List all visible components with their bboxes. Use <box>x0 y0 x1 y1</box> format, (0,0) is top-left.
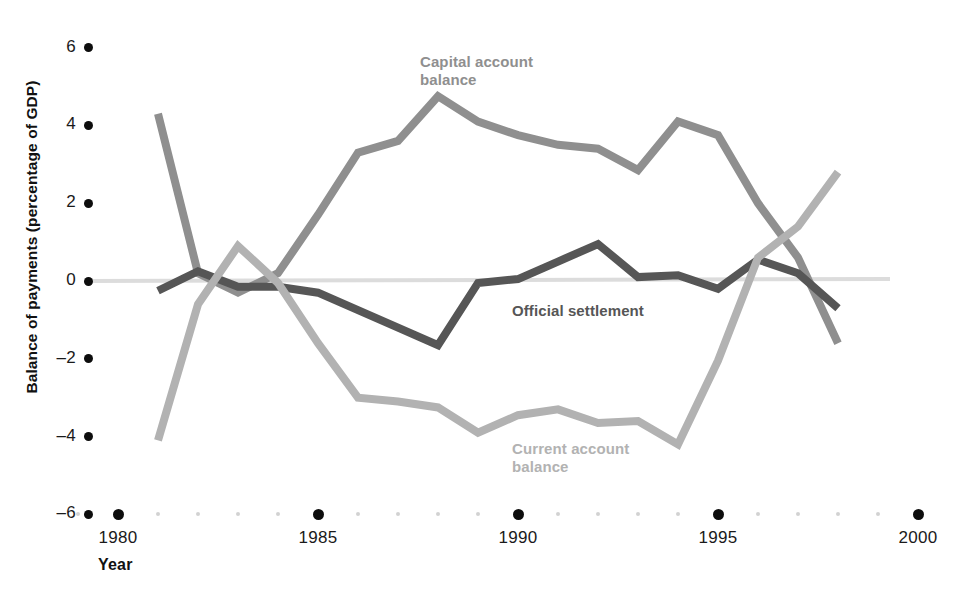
x-major-tick-dot <box>913 509 924 520</box>
x-major-tick-dot <box>113 509 124 520</box>
series-label: Capital account balance <box>420 53 580 88</box>
y-tick-dot <box>84 199 93 208</box>
y-tick-dot <box>84 121 93 130</box>
series-line-1 <box>158 244 838 345</box>
x-tick-label: 1995 <box>683 528 753 548</box>
y-tick-label: 2 <box>36 192 76 212</box>
series-label: Current account balance <box>512 440 672 475</box>
x-tick-label: 1980 <box>83 528 153 548</box>
x-major-tick-dot <box>513 509 524 520</box>
y-tick-label: 6 <box>36 37 76 57</box>
y-tick-label: 0 <box>36 270 76 290</box>
y-tick-dot <box>84 277 93 286</box>
y-tick-label: –6 <box>36 503 76 523</box>
x-tick-label: 2000 <box>883 528 953 548</box>
y-tick-dot <box>84 510 93 519</box>
x-major-tick-dot <box>313 509 324 520</box>
x-tick-label: 1985 <box>283 528 353 548</box>
plot-area <box>0 0 966 603</box>
series-line-2 <box>158 172 838 444</box>
chart-figure: Balance of payments (percentage of GDP) … <box>0 0 966 603</box>
y-tick-label: 4 <box>36 114 76 134</box>
y-tick-label: –4 <box>36 426 76 446</box>
x-tick-label: 1990 <box>483 528 553 548</box>
series-label: Official settlement <box>512 302 672 320</box>
y-tick-label: –2 <box>36 348 76 368</box>
x-major-tick-dot <box>713 509 724 520</box>
